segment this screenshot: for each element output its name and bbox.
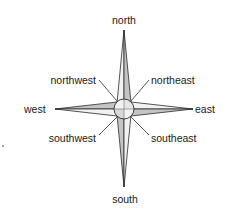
northeast-line [131,80,149,101]
label-east: east [195,103,215,115]
southwest-line [99,117,117,135]
east-arm-top [131,102,193,109]
center-circle [114,99,134,119]
north-arm-right [124,30,131,103]
northwest-line [99,80,117,101]
label-south: south [112,193,138,205]
label-southeast: southeast [151,132,197,144]
label-northwest: northwest [50,74,96,86]
east-arm-bottom [131,109,193,116]
label-west: west [23,103,46,115]
label-northeast: northeast [151,74,195,86]
north-arm-left [117,30,124,103]
south-arm-left [117,115,124,187]
label-north: north [112,14,136,26]
south-arm-right [124,115,131,187]
west-arm-bottom [55,109,117,116]
west-arm-top [55,102,117,109]
southeast-line [131,117,149,135]
label-southwest: southwest [49,132,96,144]
compass-rose: north south west east northwest northeas… [0,0,232,224]
